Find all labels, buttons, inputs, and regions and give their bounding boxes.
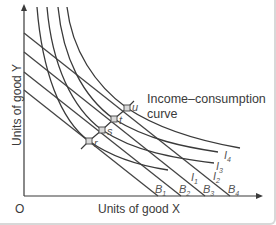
indifference-label-i3: I3 <box>216 160 223 174</box>
x-axis-label: Units of good X <box>98 202 180 216</box>
income-consumption-label-line2: curve <box>147 107 266 122</box>
income-consumption-label: Income–consumption curve <box>147 92 266 122</box>
budget-label-b3: B3 <box>203 183 214 197</box>
indifference-label-i1: I1 <box>191 171 198 185</box>
point-t-label: t <box>119 114 122 126</box>
budget-label-b4: B4 <box>228 183 239 197</box>
origin-label: O <box>15 202 24 216</box>
indifference-label-i4: I4 <box>224 149 231 163</box>
income-consumption-label-line1: Income–consumption <box>147 92 266 107</box>
point-s-label: s <box>107 125 113 137</box>
point-s-marker <box>99 127 105 133</box>
budget-line-b3 <box>24 52 205 196</box>
y-axis-label: Units of good Y <box>10 60 24 150</box>
point-r-marker <box>86 138 92 144</box>
budget-line-b2 <box>24 72 181 196</box>
point-r-label: r <box>94 137 98 149</box>
point-t-marker <box>111 116 117 122</box>
budget-label-b2: B2 <box>179 183 190 197</box>
indifference-curves <box>37 7 240 170</box>
point-u-label: u <box>132 101 138 113</box>
point-u-marker <box>124 105 130 111</box>
indifference-curve-i1 <box>37 7 168 170</box>
x-axis-arrow-icon <box>256 193 263 199</box>
y-axis-arrow-icon <box>21 4 27 11</box>
budget-label-b1: B1 <box>155 183 166 197</box>
